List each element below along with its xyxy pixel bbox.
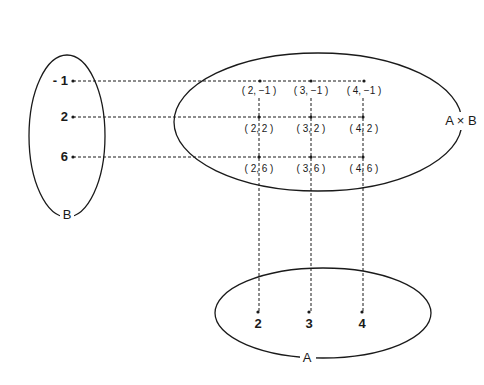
- element-dots: [71, 79, 365, 313]
- set-b-element: 2: [61, 109, 68, 124]
- set-a-label: A: [303, 350, 312, 365]
- set-a-element: 2: [254, 316, 261, 331]
- pair-label: ( 2, 2 ): [245, 123, 274, 134]
- set-a-ellipse: [215, 268, 431, 358]
- pair-label: ( 2, 6 ): [245, 163, 274, 174]
- set-b-element: - 1: [53, 73, 68, 88]
- set-a-element: 3: [305, 316, 312, 331]
- set-axb-label: A × B: [445, 113, 476, 128]
- cartesian-product-diagram: - 1 2 6 B ( 2, −1 ) ( 3, −1 ) ( 4, −1 ) …: [0, 0, 484, 385]
- pair-label: ( 2, −1 ): [242, 85, 277, 96]
- diagram-canvas: - 1 2 6 B ( 2, −1 ) ( 3, −1 ) ( 4, −1 ) …: [0, 0, 484, 385]
- pair-label: ( 3, 2 ): [297, 123, 326, 134]
- pair-label: ( 4, 2 ): [350, 123, 379, 134]
- pair-label: ( 4, −1 ): [347, 85, 382, 96]
- set-b-label: B: [63, 207, 72, 222]
- set-b-element: 6: [61, 149, 68, 164]
- pair-label: ( 4, 6 ): [350, 163, 379, 174]
- set-a-element: 4: [358, 316, 366, 331]
- pair-label: ( 3, −1 ): [294, 85, 329, 96]
- pair-label: ( 3, 6 ): [297, 163, 326, 174]
